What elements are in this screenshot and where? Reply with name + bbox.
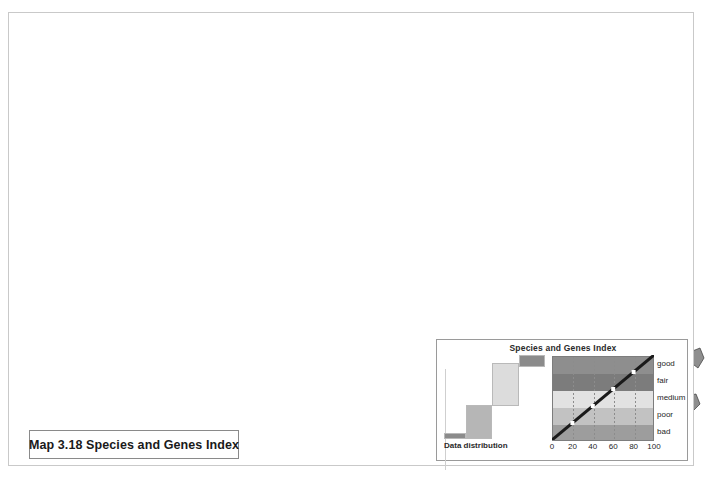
distribution-step: [444, 433, 466, 439]
axis-tick-0: 0: [550, 442, 554, 451]
identity-line: [552, 355, 654, 440]
axis-tick-80: 80: [629, 442, 638, 451]
data-distribution-label: Data distribution: [444, 441, 547, 450]
distribution-step: [466, 405, 492, 439]
map-page: .c{stroke:#3a3a3a;stroke-width:.7;stroke…: [0, 0, 705, 478]
class-ramp-panel: goodfairmediumpoorbad 020406080100: [552, 355, 684, 455]
class-label-bad: bad: [657, 427, 670, 436]
class-label-fair: fair: [657, 376, 668, 385]
map-title-box: Map 3.18 Species and Genes Index: [29, 430, 239, 459]
axis-tick-40: 40: [588, 442, 597, 451]
axis-tick-100: 100: [647, 442, 660, 451]
class-label-medium: medium: [657, 393, 685, 402]
class-label-good: good: [657, 359, 675, 368]
legend-title: Species and Genes Index: [437, 343, 689, 353]
axis-tick-60: 60: [609, 442, 618, 451]
class-label-poor: poor: [657, 410, 673, 419]
distribution-step: [492, 363, 519, 406]
line-marker: [611, 387, 615, 391]
distribution-step: [519, 355, 545, 367]
line-marker: [591, 404, 595, 408]
line-marker: [632, 370, 636, 374]
page-title: Map 3.18 Species and Genes Index: [29, 438, 239, 452]
data-distribution-panel: Data distribution: [444, 355, 547, 455]
data-distribution-chart: [444, 355, 547, 439]
axis-tick-20: 20: [568, 442, 577, 451]
legend-panel: Species and Genes Index Data distributio…: [436, 339, 688, 461]
line-marker: [570, 421, 574, 425]
